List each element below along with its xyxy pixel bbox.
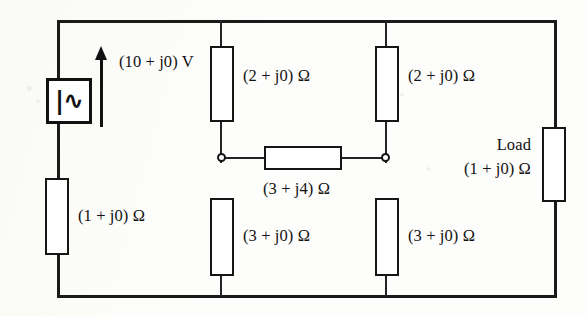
label-resistor-load: (1 + j0) Ω	[398, 159, 531, 178]
resistor-top-left	[210, 46, 234, 122]
ac-voltage-source: |∿	[46, 78, 92, 124]
wire-top-rail	[57, 20, 557, 23]
wire-right-rail-bottom	[554, 201, 557, 296]
wire-bottom-rail	[57, 295, 557, 298]
voltage-polarity-arrow	[100, 59, 103, 127]
label-resistor-top-right: (2 + j0) Ω	[408, 66, 475, 85]
wire-branch2-bottom	[385, 275, 387, 296]
resistor-top-right	[375, 46, 399, 122]
resistor-bottom-right	[375, 198, 399, 276]
label-resistor-bottom-right: (3 + j0) Ω	[408, 226, 475, 245]
label-load-title: Load	[398, 135, 531, 154]
resistor-bottom-left	[210, 198, 234, 276]
label-source-voltage: (10 + j0) V	[119, 52, 194, 71]
wire-right-rail-top	[554, 20, 557, 128]
node-bridge-left	[217, 153, 226, 162]
resistor-series-left	[45, 178, 69, 255]
wire-left-rail-middle	[57, 123, 60, 179]
label-resistor-top-left: (2 + j0) Ω	[243, 66, 310, 85]
wire-left-rail-top	[57, 20, 60, 79]
wire-branch2-top	[385, 20, 387, 47]
label-resistor-series-left: (1 + j0) Ω	[78, 206, 145, 225]
wire-branch1-top	[220, 20, 222, 47]
label-resistor-bottom-left: (3 + j0) Ω	[243, 226, 310, 245]
node-bridge-right	[381, 153, 390, 162]
label-resistor-bridge: (3 + j4) Ω	[263, 179, 330, 198]
wire-left-rail-bottom	[57, 254, 60, 297]
wire-bridge-left	[225, 157, 265, 159]
voltage-polarity-arrowhead	[95, 46, 107, 60]
wire-bridge-right	[341, 157, 382, 159]
ac-source-symbol: |∿	[55, 88, 83, 113]
resistor-load	[542, 127, 566, 202]
circuit-diagram: |∿ (10 + j0) V (1 + j0) Ω (2 + j0) Ω (2 …	[0, 0, 587, 316]
wire-branch1-bottom	[220, 275, 222, 296]
resistor-bridge	[264, 146, 342, 170]
